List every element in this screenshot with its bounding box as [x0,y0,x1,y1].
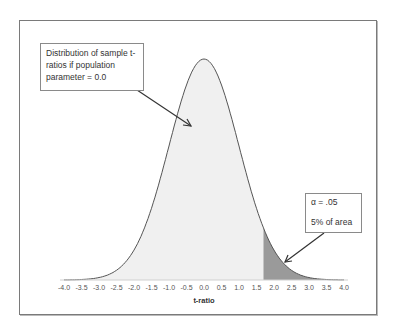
alpha-callout: α = .05 5% of area [305,193,362,233]
alpha-value: α = .05 [311,197,356,208]
rejection-tail-area [264,228,345,280]
alpha-arrowhead-icon [285,255,292,262]
x-tick-label: 4.0 [334,284,354,291]
distribution-body-area [64,59,344,280]
x-axis-label: t-ratio [193,296,214,305]
alpha-callout-arrow [285,233,324,262]
distribution-callout: Distribution of sample t-ratios if popul… [40,43,144,91]
distribution-callout-text: Distribution of sample t-ratios if popul… [46,48,135,82]
area-percent: 5% of area [311,217,356,228]
